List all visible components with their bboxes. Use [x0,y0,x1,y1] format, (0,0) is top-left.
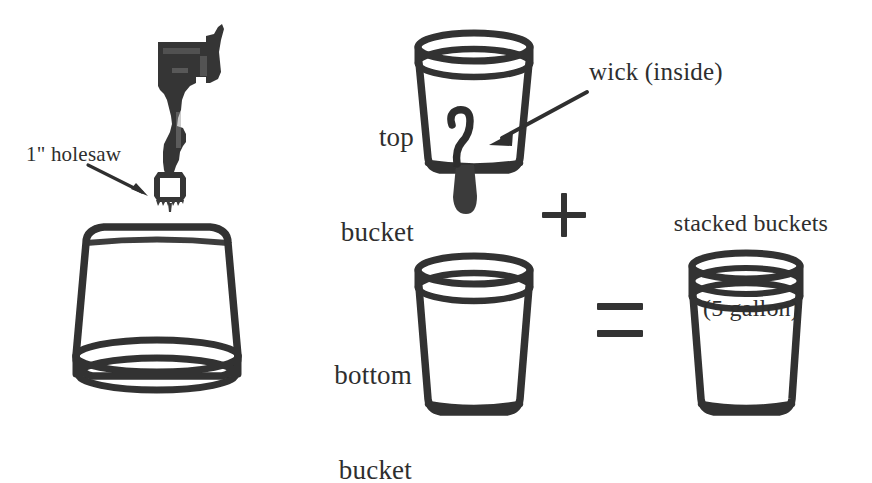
drill-with-holesaw [154,24,224,212]
stacked-buckets-label: stacked buckets (5 gallon) [635,152,867,379]
holesaw-bit [154,172,186,212]
top-bucket-label-line1: top [296,122,414,154]
wick-arrow [489,92,587,146]
drill-body [158,24,224,176]
bottom-bucket [418,256,530,412]
wick-label: wick (inside) [589,57,723,87]
bottom-bucket-label-line2: bucket [282,455,412,483]
bottom-bucket-label-line1: bottom [282,360,412,392]
drill-chuck-highlight [200,56,207,76]
bottom-bucket-label: bottom bucket [282,296,412,483]
stacked-buckets-label-line1: stacked buckets [635,209,867,237]
top-bucket-label: top bucket [296,58,414,313]
drill-highlight-upper [163,48,200,54]
top-bucket-label-line2: bucket [296,217,414,249]
drill-highlight-lower [172,68,188,73]
inverted-bucket [76,227,238,390]
holesaw-label: 1" holesaw [26,142,121,167]
top-bucket [418,33,530,170]
wick [451,110,477,214]
holesaw-arrow [88,165,148,196]
drill-shaft-highlight [176,112,181,148]
plus-operator [542,193,586,237]
stacked-buckets-label-line2: (5 gallon) [635,294,867,322]
